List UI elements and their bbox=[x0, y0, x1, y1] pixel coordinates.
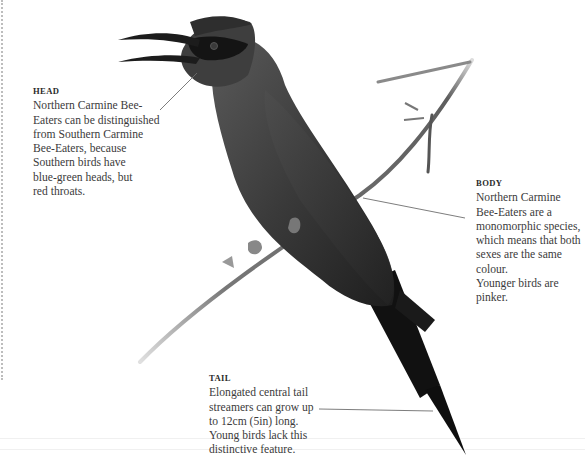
callout-head-line: Bee-Eaters, because bbox=[33, 142, 163, 156]
callout-body-line: Northern Carmine bbox=[476, 191, 585, 205]
callout-tail-line: to 12cm (5in) long. bbox=[209, 415, 319, 429]
callout-head-line: from Southern Carmine bbox=[33, 128, 163, 142]
body-leader-line bbox=[363, 198, 465, 218]
tail-leader-line bbox=[319, 409, 433, 411]
callout-tail-line: Elongated central tail bbox=[209, 386, 319, 400]
callout-head-line: blue-green heads, but bbox=[33, 171, 163, 185]
callout-head-line: Southern birds have bbox=[33, 156, 163, 170]
callout-body-heading: BODY bbox=[476, 176, 585, 190]
callout-body-line: Bee-Eaters are a bbox=[476, 206, 585, 220]
callout-tail: TAIL Elongated central tail streamers ca… bbox=[209, 371, 319, 458]
head-leader-line bbox=[160, 73, 197, 110]
callout-tail-line: Young birds lack this bbox=[209, 429, 319, 443]
bird-head bbox=[118, 16, 255, 86]
callout-head: HEAD Northern Carmine Bee- Eaters can be… bbox=[33, 84, 163, 199]
callout-head-line: red throats. bbox=[33, 185, 163, 199]
callout-body-line: sexes are the same colour. bbox=[476, 248, 585, 277]
callout-tail-heading: TAIL bbox=[209, 371, 319, 385]
callout-head-heading: HEAD bbox=[33, 84, 163, 98]
callout-head-line: Northern Carmine Bee- bbox=[33, 99, 163, 113]
callout-body-line: which means that both bbox=[476, 234, 585, 248]
callout-body-line: monomorphic species, bbox=[476, 220, 585, 234]
callout-head-line: Eaters can be distinguished bbox=[33, 114, 163, 128]
callout-tail-line: distinctive feature. bbox=[209, 443, 319, 457]
callout-body: BODY Northern Carmine Bee-Eaters are a m… bbox=[476, 176, 585, 306]
callout-tail-line: streamers can grow up bbox=[209, 401, 319, 415]
callout-body-line: Younger birds are pinker. bbox=[476, 277, 585, 306]
